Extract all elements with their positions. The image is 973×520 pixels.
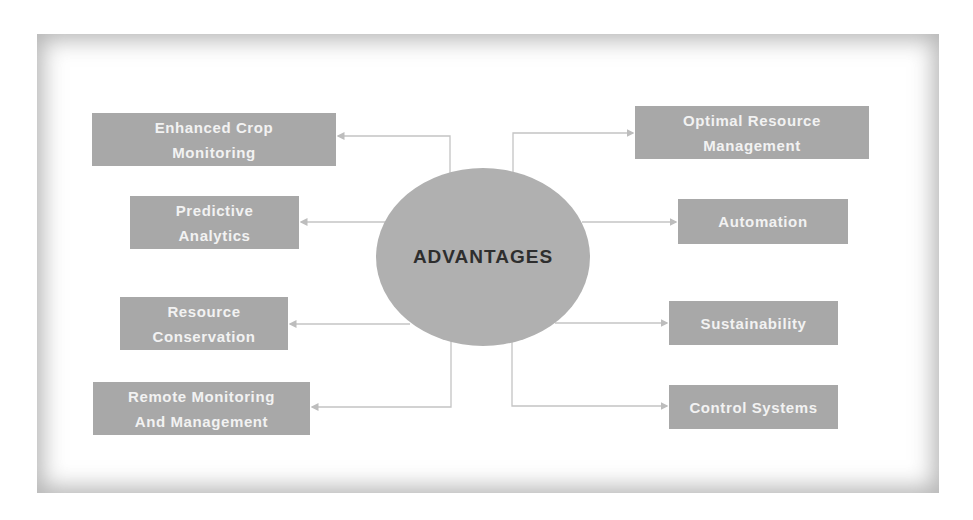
node-label-line2: Monitoring	[172, 140, 255, 165]
node-sustainability: Sustainability	[669, 301, 838, 345]
node-automation: Automation	[678, 199, 848, 244]
node-optimal-resource-management: Optimal Resource Management	[635, 106, 869, 159]
node-label: Control Systems	[689, 395, 817, 420]
node-label-line2: Management	[703, 133, 801, 158]
node-label-line1: Optimal Resource	[683, 108, 821, 133]
node-label-line2: And Management	[135, 409, 268, 434]
node-label-line1: Remote Monitoring	[128, 384, 275, 409]
node-label: Automation	[718, 209, 807, 234]
center-node: ADVANTAGES	[376, 168, 590, 346]
node-enhanced-crop-monitoring: Enhanced Crop Monitoring	[92, 113, 336, 166]
node-predictive-analytics: Predictive Analytics	[130, 196, 299, 249]
node-label-line1: Predictive	[176, 198, 254, 223]
node-resource-conservation: Resource Conservation	[120, 297, 288, 350]
node-label-line2: Analytics	[178, 223, 250, 248]
node-label-line2: Conservation	[152, 324, 255, 349]
center-label: ADVANTAGES	[413, 246, 553, 268]
node-label-line1: Resource	[167, 299, 240, 324]
node-control-systems: Control Systems	[669, 385, 838, 429]
node-remote-monitoring: Remote Monitoring And Management	[93, 382, 310, 435]
node-label-line1: Enhanced Crop	[155, 115, 274, 140]
node-label: Sustainability	[701, 311, 807, 336]
